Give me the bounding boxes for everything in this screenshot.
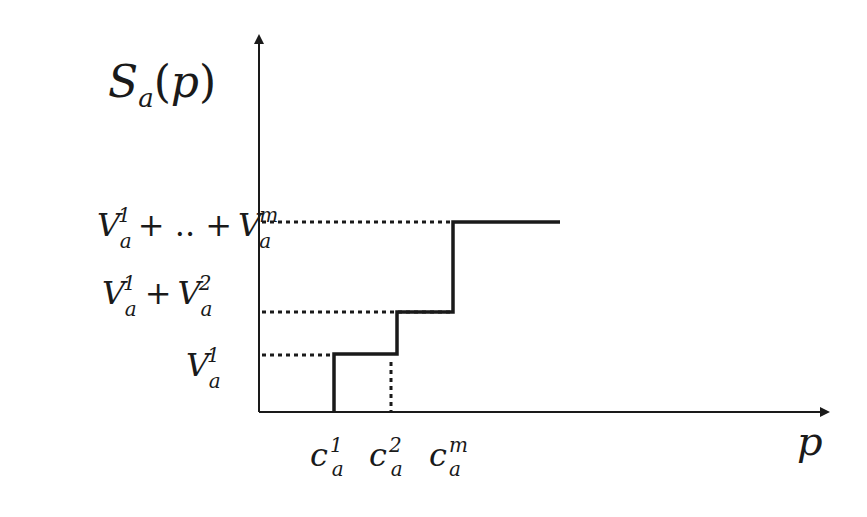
ytick-label-v12: V1a+V2a — [102, 271, 212, 321]
ytick-label-v1: V1a — [186, 343, 221, 393]
xtick-label-c2: c2a — [369, 433, 403, 481]
xtick-label-c1: c1a — [310, 433, 344, 481]
dotted-guides — [262, 222, 451, 412]
step-function-line — [334, 222, 560, 412]
step-function-diagram: Sa(p) V1a+ .. +Vma V1a+V2a V1a c1a c2a c… — [0, 0, 867, 517]
xtick-label-cm: cma — [429, 433, 468, 481]
x-axis-label: p — [797, 418, 823, 464]
y-axis-label: Sa(p) — [108, 56, 216, 113]
ytick-label-vm: V1a+ .. +Vma — [97, 203, 278, 253]
